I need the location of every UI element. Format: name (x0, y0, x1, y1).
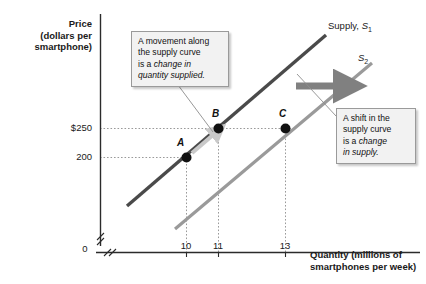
callout-movement-along-curve: A movement along the supply curve is a c… (131, 31, 229, 87)
y-tick-label-200: 200 (52, 151, 92, 162)
data-point-b (214, 124, 224, 134)
point-label-c: C (279, 108, 286, 119)
x-axis-title: Quantity (millions of smartphones per we… (310, 249, 426, 272)
callout-movement-line3-plain: is a (138, 59, 154, 69)
movement-along-curve-arrow (192, 135, 213, 153)
y-axis-title-line3: smartphone) (8, 41, 92, 53)
curve-label-s2: S2 (358, 52, 368, 65)
x-axis-title-line2: smartphones per week) (310, 261, 426, 273)
data-point-a (182, 153, 192, 163)
callout-movement-line1: A movement along (138, 36, 223, 47)
x-tick-label-11: 11 (206, 240, 230, 251)
point-label-a: A (177, 137, 184, 148)
curve-label-s1-subscript: 1 (368, 26, 372, 33)
origin-label: 0 (78, 243, 92, 254)
callout-shift-line2: supply curve (343, 124, 410, 135)
y-axis-title: Price (dollars per smartphone) (8, 18, 92, 53)
y-axis-title-line2: (dollars per (8, 30, 92, 42)
x-axis-title-line1: Quantity (millions of (310, 249, 426, 261)
callout-movement-line4: quantity supplied. (138, 70, 223, 81)
supply-curve-figure: Price (dollars per smartphone) Quantity … (0, 0, 426, 284)
callout-shift-line4-italic: in supply. (343, 147, 379, 157)
curve-label-s1: Supply, S1 (328, 20, 372, 33)
callout-movement-line4-italic: quantity supplied. (138, 70, 205, 80)
y-tick-label-250: $250 (52, 122, 92, 133)
y-axis-title-line1: Price (8, 18, 92, 30)
callout-shift-line1: A shift in the (343, 113, 410, 124)
curve-label-s1-text: Supply, (328, 20, 359, 31)
curve-label-s2-subscript: 2 (364, 58, 368, 65)
callout-movement-line3: is a change in (138, 59, 223, 70)
callout-shift-line3: is a change (343, 136, 410, 147)
callout-shift-line3-plain: is a (343, 136, 359, 146)
data-point-c (281, 124, 291, 134)
callout-movement-leader-line (178, 85, 213, 132)
x-tick-label-10: 10 (174, 240, 198, 251)
callout-shift-in-curve: A shift in the supply curve is a change … (336, 108, 416, 164)
callout-shift-line3-italic: change (359, 136, 387, 146)
callout-movement-line2: the supply curve (138, 47, 223, 58)
point-label-b: B (212, 108, 219, 119)
callout-shift-line4: in supply. (343, 147, 410, 158)
callout-movement-line3-italic: change in (154, 59, 191, 69)
x-tick-label-13: 13 (273, 240, 297, 251)
